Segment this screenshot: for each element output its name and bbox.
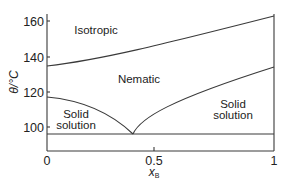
phase-diagram-chart: 160 140 120 100 0 0.5 1 θ/°C xB Isotropi…	[0, 0, 291, 183]
region-label-nematic: Nematic	[118, 73, 160, 85]
x-axis-label-sub: B	[155, 172, 160, 179]
y-tick-label-160: 160	[23, 15, 44, 29]
y-tick-label-140: 140	[23, 51, 44, 65]
y-axis-label: θ/°C	[7, 70, 21, 94]
region-label-isotropic: Isotropic	[74, 24, 118, 36]
region-label-solution-right: solution	[213, 109, 253, 121]
y-tick-label-120: 120	[23, 86, 44, 100]
region-label-solution-left: solution	[56, 119, 96, 131]
y-tick-label-100: 100	[23, 121, 44, 135]
x-tick-label-0: 0	[44, 154, 51, 168]
x-tick-label-1: 1	[271, 154, 278, 168]
